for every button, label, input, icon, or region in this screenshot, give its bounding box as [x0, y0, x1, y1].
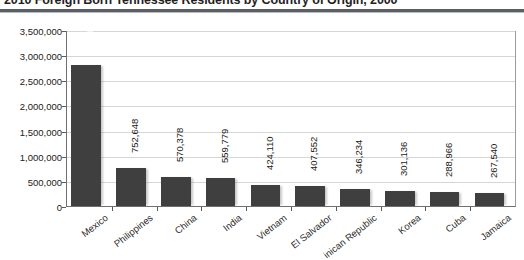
y-axis-tick-label: 2,000,000: [4, 101, 62, 112]
x-axis-tick-label: Vietnam: [255, 212, 289, 242]
y-axis-tick-label: 2,500,000: [4, 76, 62, 87]
bar-value-label: 346,234: [353, 139, 364, 173]
x-axis-tick-label: Jamaica: [478, 212, 513, 242]
x-axis-tick-label: Mexico: [79, 212, 109, 239]
x-axis-tick-label: Cuba: [443, 212, 468, 235]
bar[interactable]: [475, 193, 505, 206]
chart-title: 2010 Foreign Born Tennessee Residents by…: [4, 0, 397, 7]
x-axis-tick-label: El Salvador: [289, 212, 334, 251]
y-axis-tick-label: 0: [4, 202, 62, 213]
y-axis-tick-label: 1,500,000: [4, 126, 62, 137]
bar-value-label: 407,552: [308, 136, 319, 170]
bar-value-label: 288,966: [442, 142, 453, 176]
y-axis-tick-label: 1,000,000: [4, 151, 62, 162]
bar[interactable]: [206, 178, 236, 206]
x-axis-tick-label: China: [173, 212, 199, 236]
x-axis-tick-mark: [470, 207, 471, 211]
y-axis-tick-label: 3,500,000: [4, 26, 62, 37]
bar[interactable]: [161, 177, 191, 206]
bar-slot: 301,136: [381, 31, 426, 206]
bar[interactable]: [385, 191, 415, 206]
bar-value-label: 752,648: [129, 119, 140, 153]
x-axis-tick-mark: [157, 207, 158, 211]
bar-value-label: 2,812,498: [84, 20, 95, 62]
bar-slot: 752,648: [112, 31, 157, 206]
chart-title-clip: 2010 Foreign Born Tennessee Residents by…: [0, 0, 524, 9]
bar-value-label: 570,378: [173, 128, 184, 162]
bar[interactable]: [71, 65, 101, 206]
x-axis-labels: MexicoPhilippinesChinaIndiaVietnamEl Sal…: [67, 212, 517, 260]
x-axis-tick-mark: [336, 207, 337, 211]
bar-value-label: 424,110: [263, 136, 274, 170]
y-axis-tick-label: 3,000,000: [4, 51, 62, 62]
bar[interactable]: [116, 168, 146, 206]
bar-value-label: 301,136: [397, 142, 408, 176]
x-axis-tick-label: India: [221, 212, 244, 233]
x-axis-tick-mark: [246, 207, 247, 211]
bar-slot: 570,378: [157, 31, 202, 206]
bar[interactable]: [340, 189, 370, 206]
bar-slot: 407,552: [291, 31, 336, 206]
bar-value-label: 559,779: [218, 129, 229, 163]
bar-slot: 424,110: [246, 31, 291, 206]
chart-container: 2010 Foreign Born Tennessee Residents by…: [0, 0, 524, 260]
bar-value-label: 267,540: [487, 143, 498, 177]
y-axis-tick-label: 500,000: [4, 176, 62, 187]
y-axis-tick-mark: [62, 207, 66, 208]
bar-slot: 346,234: [336, 31, 381, 206]
bar-slot: 2,812,498: [67, 31, 112, 206]
bar[interactable]: [295, 186, 325, 206]
bar-slot: 267,540: [470, 31, 515, 206]
x-axis-tick-label: Korea: [396, 212, 423, 236]
title-divider-secondary: [0, 12, 524, 13]
x-axis-tick-mark: [381, 207, 382, 211]
x-axis-tick-mark: [291, 207, 292, 211]
bar-slot: 288,966: [425, 31, 470, 206]
bar-series: 2,812,498752,648570,378559,779424,110407…: [67, 31, 515, 206]
bar[interactable]: [430, 192, 460, 206]
x-axis-tick-label: Philippines: [111, 212, 154, 249]
bar-slot: 559,779: [201, 31, 246, 206]
x-axis-tick-mark: [201, 207, 202, 211]
x-axis-tick-mark: [112, 207, 113, 211]
bar[interactable]: [251, 185, 281, 206]
x-axis-tick-mark: [425, 207, 426, 211]
